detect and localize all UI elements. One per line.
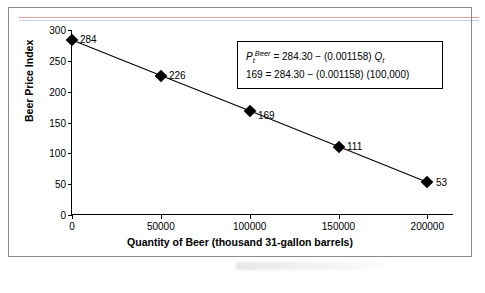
x-axis-title: Quantity of Beer (thousand 31-gallon bar… [9, 236, 471, 248]
x-tick-label: 50000 [147, 221, 175, 232]
data-point-label: 169 [258, 110, 275, 121]
data-point-label: 226 [169, 70, 186, 81]
scan-artifact-smudge [236, 262, 386, 270]
equation-line-2: 169 = 284.30 − (0.001158) (100,000) [246, 68, 436, 82]
y-tick-label: 150 [49, 117, 66, 128]
y-tick-label: 0 [60, 210, 66, 221]
x-tick-label: 0 [69, 221, 75, 232]
equation-line-1: PtBeer = 284.30 − (0.001158) Qt [246, 47, 436, 68]
y-tick-label: 50 [55, 179, 66, 190]
data-point-label: 53 [436, 177, 447, 188]
y-tick-label: 250 [49, 55, 66, 66]
y-tick-label: 100 [49, 148, 66, 159]
scan-artifact-blue-line [19, 20, 479, 21]
equation-rhs: = 284.30 − (0.001158) [271, 51, 375, 62]
y-axis-title: Beer Price Index [23, 40, 35, 122]
x-tick-label: 100000 [233, 221, 266, 232]
equation-p-symbol: P [246, 51, 253, 62]
equation-p-superscript: Beer [255, 49, 271, 58]
chart-frame: Beer Price Index Quantity of Beer (thous… [8, 7, 472, 257]
data-point-label: 284 [80, 34, 97, 45]
scan-artifact-red-line [19, 17, 479, 18]
y-tick-label: 200 [49, 86, 66, 97]
equation-annotation-box: PtBeer = 284.30 − (0.001158) Qt 169 = 28… [237, 41, 443, 89]
x-tick-label: 150000 [322, 221, 355, 232]
equation-q-subscript: t [382, 56, 384, 65]
y-tick-label: 300 [49, 25, 66, 36]
x-tick-label: 200000 [411, 221, 444, 232]
data-point-label: 111 [347, 141, 362, 152]
